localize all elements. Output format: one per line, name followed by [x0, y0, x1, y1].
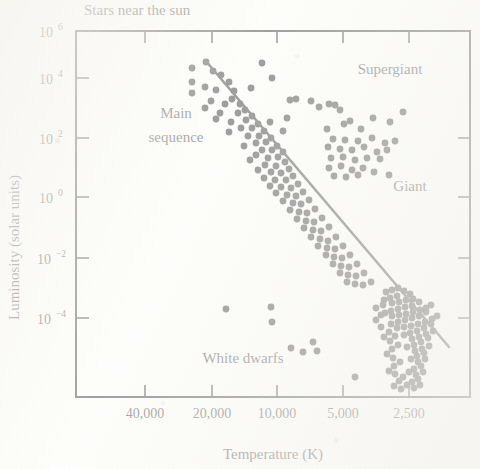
star-point	[338, 263, 345, 270]
star-point	[404, 344, 411, 351]
series-cool-dwarf-cluster	[373, 285, 441, 393]
star-point	[269, 75, 276, 82]
star-point	[389, 313, 396, 320]
star-point	[401, 332, 408, 339]
star-point	[316, 104, 323, 111]
star-point	[386, 329, 393, 336]
star-point	[337, 107, 344, 114]
star-point	[249, 125, 256, 132]
star-point	[222, 101, 229, 108]
y-tick-base-5: 10	[37, 312, 51, 327]
star-point	[275, 154, 282, 161]
star-point	[286, 166, 293, 173]
star-point	[253, 140, 260, 147]
star-point	[330, 136, 337, 143]
star-point	[332, 246, 339, 253]
star-point	[238, 125, 245, 132]
star-point	[228, 119, 235, 126]
x-axis-label: Temperature (K)	[223, 446, 323, 463]
y-axis-label: Luminosity (solar units)	[6, 175, 23, 320]
star-point	[337, 146, 344, 153]
star-point	[290, 200, 297, 207]
star-point	[304, 210, 311, 217]
hr-diagram-figure: Stars near the sun Luminosity (solar uni…	[0, 0, 480, 469]
star-point	[411, 385, 418, 392]
star-point	[235, 110, 242, 117]
star-point	[347, 118, 354, 125]
star-point	[434, 313, 441, 320]
y-tick-exp-1: 4	[58, 69, 63, 79]
star-point	[396, 312, 403, 319]
y-tick-labels: 10 6 10 4 10 2 10 0 10 −2 10 −4	[37, 22, 66, 327]
scatter-points-layer	[189, 59, 441, 393]
star-point	[395, 342, 402, 349]
star-point	[259, 60, 266, 67]
star-point	[303, 218, 310, 225]
star-point	[259, 147, 266, 154]
y-tick-label-0: 10 6	[39, 22, 63, 40]
star-point	[344, 279, 351, 286]
star-point	[288, 185, 295, 192]
star-point	[425, 335, 432, 342]
star-point	[408, 356, 415, 363]
star-point	[273, 163, 280, 170]
star-point	[374, 149, 381, 156]
star-point	[397, 359, 404, 366]
star-point	[326, 101, 333, 108]
y-tick-label-4: 10 −2	[37, 249, 66, 267]
star-point	[255, 167, 262, 174]
chart-title: Stars near the sun	[84, 2, 191, 18]
star-point	[189, 79, 196, 86]
annotation-main-sequence-line1: Main	[160, 105, 192, 121]
star-point	[407, 330, 414, 337]
y-tick-exp-3: 0	[58, 188, 63, 198]
star-point	[324, 126, 331, 133]
star-point	[400, 109, 407, 116]
star-point	[415, 376, 422, 383]
star-point	[308, 234, 315, 241]
star-point	[248, 85, 255, 92]
star-point	[343, 174, 350, 181]
star-point	[395, 306, 402, 313]
star-point	[241, 143, 248, 150]
star-point	[339, 255, 346, 262]
star-point	[409, 336, 416, 343]
star-point	[386, 368, 393, 375]
y-tick-label-3: 10 0	[39, 188, 63, 206]
star-point	[298, 201, 305, 208]
star-point	[189, 65, 196, 72]
y-tick-label-1: 10 4	[39, 69, 63, 87]
star-point	[381, 334, 388, 341]
star-point	[373, 305, 380, 312]
star-point	[396, 299, 403, 306]
star-point	[418, 339, 425, 346]
star-point	[390, 355, 397, 362]
star-point	[387, 119, 394, 126]
star-point	[414, 353, 421, 360]
star-point	[300, 189, 307, 196]
star-point	[370, 115, 377, 122]
star-point	[346, 264, 353, 271]
star-point	[408, 323, 415, 330]
y-tick-marks	[76, 78, 89, 318]
star-point	[308, 98, 315, 105]
y-tick-label-5: 10 −4	[37, 309, 66, 327]
star-point	[268, 304, 275, 311]
star-point	[420, 369, 427, 376]
star-point	[426, 343, 433, 350]
star-point	[355, 138, 362, 145]
star-point	[414, 328, 421, 335]
y-tick-base-1: 10	[39, 72, 53, 87]
star-point	[340, 154, 347, 161]
star-point	[229, 96, 236, 103]
star-point	[404, 382, 411, 389]
star-point	[364, 155, 371, 162]
star-point	[389, 346, 396, 353]
star-point	[330, 261, 337, 268]
star-point	[312, 206, 319, 213]
star-point	[280, 198, 287, 205]
star-point	[265, 155, 272, 162]
star-point	[349, 167, 356, 174]
star-point	[323, 252, 330, 259]
star-point	[284, 115, 291, 122]
